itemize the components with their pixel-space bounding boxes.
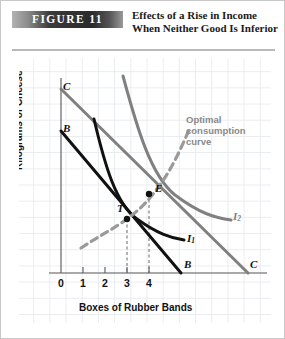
budget-line-1-x-intercept-label: B <box>184 258 191 270</box>
optimal-consumption-curve <box>81 130 189 248</box>
figure-number-banner: FIGURE 11 <box>12 11 123 28</box>
point-T-marker <box>124 216 130 222</box>
header-divider <box>12 49 275 51</box>
indifference-curve-I2 <box>123 76 231 220</box>
chart-plot-area: C B B C T E I1 I2 Optimal consumption cu… <box>19 58 271 323</box>
y-axis-label: Kilograms of Cheese <box>19 71 24 170</box>
figure-title: Effects of a Rise in Income When Neither… <box>132 9 278 35</box>
budget-line-2-x-intercept-label: C <box>250 258 257 270</box>
point-E-label: E <box>155 182 162 194</box>
optimal-consumption-curve-label: Optimal consumption curve <box>186 114 258 147</box>
x-axis-ticks <box>83 267 149 273</box>
point-E-marker <box>146 191 152 197</box>
figure-number-label: FIGURE 11 <box>12 11 123 28</box>
x-tick-1: 1 <box>76 277 90 289</box>
budget-line-1-y-intercept-label: B <box>63 122 70 134</box>
indifference-curve-1-label: I1 <box>187 232 195 245</box>
figure-container: FIGURE 11 Effects of a Rise in Income Wh… <box>0 0 285 339</box>
figure-header: FIGURE 11 Effects of a Rise in Income Wh… <box>1 1 285 55</box>
point-T-label: T <box>117 202 124 214</box>
x-tick-2: 2 <box>98 277 112 289</box>
x-axis-label: Boxes of Rubber Bands <box>79 302 192 313</box>
x-tick-4: 4 <box>142 277 156 289</box>
indifference-curve-I1 <box>94 119 184 240</box>
indifference-curve-2-label: I2 <box>233 210 241 223</box>
budget-line-2-y-intercept-label: C <box>63 80 70 92</box>
x-tick-0: 0 <box>54 277 68 289</box>
x-tick-3: 3 <box>120 277 134 289</box>
